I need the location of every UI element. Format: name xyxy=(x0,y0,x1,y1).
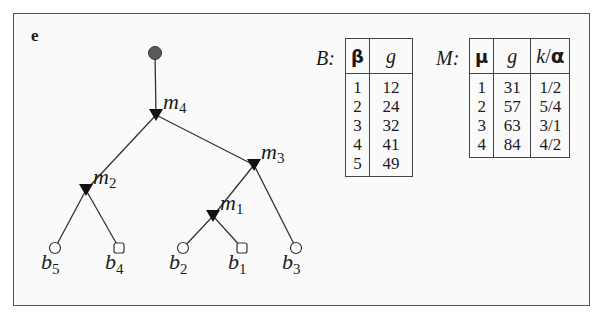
table-m-cell: 57 xyxy=(494,97,531,116)
table-b-row: 332 xyxy=(346,116,413,135)
table-b-cell: 2 xyxy=(346,97,370,116)
triangle-node-icon xyxy=(149,109,163,121)
k-symbol: k xyxy=(536,45,545,67)
table-m-cell: 3 xyxy=(470,116,494,135)
table-m-header-g: g xyxy=(494,39,531,74)
triangle-node-icon xyxy=(79,184,93,196)
table-m-cell: 3/1 xyxy=(531,116,570,135)
tree-edge xyxy=(155,53,156,115)
table-m-body: 1311/22575/43633/14844/2 xyxy=(470,74,570,158)
table-m-cell: 63 xyxy=(494,116,531,135)
table-b-row: 224 xyxy=(346,97,413,116)
table-b-cell: 1 xyxy=(346,74,370,98)
table-m-name: M: xyxy=(436,47,459,70)
triangle-node-icon xyxy=(206,210,220,222)
table-b-cell: 49 xyxy=(369,154,412,177)
table-m-cell: 2 xyxy=(470,97,494,116)
node-label-m4: m4 xyxy=(163,89,187,116)
table-b-row: 112 xyxy=(346,74,413,98)
table-b-body: 112224332441549 xyxy=(346,74,413,177)
table-m-cell: 1/2 xyxy=(531,74,570,98)
table-b-header-g: g xyxy=(369,39,412,74)
table-b-cell: 12 xyxy=(369,74,412,98)
table-m-cell: 5/4 xyxy=(531,97,570,116)
table-m-row: 3633/1 xyxy=(470,116,570,135)
node-label-m2: m2 xyxy=(93,164,116,191)
table-m: μ g k/α 1311/22575/43633/14844/2 xyxy=(469,38,570,158)
root-node-icon xyxy=(149,47,162,60)
table-m-header-k-alpha: k/α xyxy=(531,39,570,74)
tree-edge xyxy=(55,190,86,248)
alpha-symbol: α xyxy=(551,44,565,68)
table-m-cell: 4 xyxy=(470,135,494,158)
table-b-cell: 5 xyxy=(346,154,370,177)
table-m-cell: 84 xyxy=(494,135,531,158)
table-m-cell: 31 xyxy=(494,74,531,98)
table-m-row: 1311/2 xyxy=(470,74,570,98)
table-b-cell: 32 xyxy=(369,116,412,135)
table-b-cell: 4 xyxy=(346,135,370,154)
tree-edge xyxy=(183,216,213,248)
triangle-node-icon xyxy=(247,159,261,171)
table-b-cell: 3 xyxy=(346,116,370,135)
tree-edge xyxy=(254,165,296,248)
table-b: β g 112224332441549 xyxy=(345,38,413,177)
node-label-m3: m3 xyxy=(261,139,284,166)
table-b-name: B: xyxy=(316,47,335,70)
tree-edge xyxy=(156,115,254,165)
table-m-row: 2575/4 xyxy=(470,97,570,116)
table-b-cell: 24 xyxy=(369,97,412,116)
table-m-header-mu: μ xyxy=(470,39,494,74)
table-b-row: 441 xyxy=(346,135,413,154)
table-m-cell: 4/2 xyxy=(531,135,570,158)
table-b-header-beta: β xyxy=(346,39,370,74)
tree-edge xyxy=(86,190,119,248)
table-b-row: 549 xyxy=(346,154,413,177)
table-m-cell: 1 xyxy=(470,74,494,98)
table-b-cell: 41 xyxy=(369,135,412,154)
node-label-m1: m1 xyxy=(220,190,243,217)
table-m-row: 4844/2 xyxy=(470,135,570,158)
